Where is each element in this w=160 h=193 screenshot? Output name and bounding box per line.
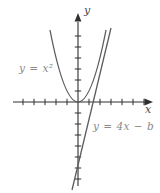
function-graph-figure: y = x² y = 4x − b x y — [0, 0, 160, 193]
y-axis-arrow-icon — [75, 13, 82, 22]
parabola-equation-label: y = x² — [19, 62, 54, 74]
axes-canvas — [0, 0, 160, 193]
line-equation-label: y = 4x − b — [93, 120, 154, 132]
y-axis-label: y — [84, 4, 90, 17]
x-axis-label: x — [145, 103, 151, 116]
